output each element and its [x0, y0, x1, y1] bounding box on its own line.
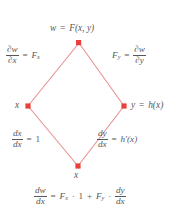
fraction-partial-w-over-partial-x: ∂w ∂x: [6, 45, 19, 66]
fraction-denominator: ∂y: [133, 56, 146, 66]
fraction-denominator: dx: [12, 140, 23, 150]
node-label-w-rhs: F(x, y): [69, 23, 94, 33]
expression-h-prime-x: h′(x): [120, 134, 137, 144]
subscript-y: y: [102, 194, 105, 201]
node-label-w-eq: =: [59, 24, 67, 33]
dot-operator-1: ·: [70, 192, 76, 201]
edge-label-dx-dx-equals-one: dx dx = 1: [12, 129, 40, 150]
node-label-w: w = F(x, y): [50, 24, 94, 34]
node-label-x-bottom-text: x: [74, 170, 78, 180]
fraction-numerator: dy: [115, 186, 126, 197]
fraction-numerator: ∂w: [133, 45, 146, 56]
fraction-dy-over-dx: dy dx: [115, 186, 126, 207]
node-label-y-rhs: h(x): [148, 100, 163, 110]
edge-label-partial-w-partial-x: ∂w ∂x = Fx: [6, 45, 40, 66]
equals-sign: =: [110, 135, 118, 144]
plus-sign: +: [85, 192, 93, 201]
fraction-dy-over-dx: dy dx: [97, 129, 108, 150]
node-label-y: y = h(x): [131, 101, 163, 111]
fraction-numerator: dy: [97, 129, 108, 140]
chain-rule-figure: w = F(x, y) ∂w ∂x = Fx Fy = ∂w ∂y x y = …: [0, 0, 178, 208]
node-label-y-lhs: y: [131, 100, 135, 110]
dot-operator-2: ·: [107, 192, 113, 201]
value-one: 1: [35, 134, 40, 144]
fraction-partial-w-over-partial-y: ∂w ∂y: [133, 45, 146, 66]
fraction-denominator: dx: [97, 140, 108, 150]
node-left: [25, 103, 30, 108]
fraction-dw-over-dx: dw dx: [34, 186, 47, 207]
subscript-x: x: [65, 194, 68, 201]
node-label-x-left-text: x: [15, 100, 19, 110]
equals-sign: =: [123, 51, 131, 60]
fraction-numerator: ∂w: [6, 45, 19, 56]
edge-label-dy-dx-equals-h-prime: dy dx = h′(x): [97, 129, 137, 150]
value-one: 1: [79, 191, 84, 201]
fraction-denominator: dx: [115, 197, 126, 207]
edge-label-Fy-partial-w-partial-y: Fy = ∂w ∂y: [112, 45, 146, 66]
result-equation: dw dx = Fx · 1 + Fy · dy dx: [34, 186, 126, 207]
equals-sign: =: [21, 51, 29, 60]
subscript-y: y: [118, 53, 121, 60]
subscript-x: x: [37, 53, 40, 60]
node-label-x-left: x: [15, 101, 19, 110]
node-label-w-lhs: w: [50, 23, 56, 33]
fraction-numerator: dw: [34, 186, 47, 197]
fraction-denominator: dx: [34, 197, 47, 207]
fraction-denominator: ∂x: [6, 56, 19, 66]
equals-sign: =: [49, 192, 57, 201]
fraction-numerator: dx: [12, 129, 23, 140]
node-label-y-eq: =: [138, 101, 146, 110]
node-label-x-bottom: x: [74, 171, 78, 180]
node-bottom: [75, 163, 80, 168]
fraction-dx-over-dx: dx dx: [12, 129, 23, 150]
equals-sign: =: [25, 135, 33, 144]
node-right: [121, 103, 126, 108]
node-top: [76, 40, 81, 45]
